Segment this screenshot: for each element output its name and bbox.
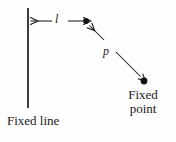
fixed-point-caption-line-1: Fixed xyxy=(114,88,172,102)
geometry-figure: l p Fixed line Fixed point xyxy=(0,0,176,142)
fixed-point-caption-line-2: point xyxy=(114,102,172,116)
fixed-line-caption: Fixed line xyxy=(7,114,59,128)
distance-p-arrow-upper-half xyxy=(90,26,105,41)
distance-p-label: p xyxy=(103,45,109,58)
fixed-point-caption: Fixed point xyxy=(114,88,172,115)
fixed-point-dot xyxy=(141,78,148,85)
distance-p-arrow-lower-half xyxy=(116,52,141,77)
distance-l-label: l xyxy=(55,13,59,26)
moving-point-dot xyxy=(83,18,89,24)
